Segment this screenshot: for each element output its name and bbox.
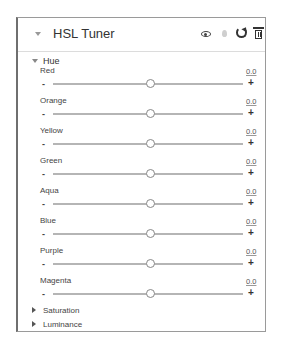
- slider-row-aqua: Aqua 0.0 - +: [18, 186, 268, 216]
- slider-row-magenta: Magenta 0.0 - +: [18, 276, 268, 306]
- slider-value[interactable]: 0.0: [246, 157, 256, 166]
- slider-thumb[interactable]: [146, 289, 155, 298]
- slider-thumb[interactable]: [146, 229, 155, 238]
- panel-header: HSL Tuner: [18, 18, 265, 52]
- slider-label: Blue: [40, 216, 56, 225]
- slider-label: Orange: [40, 96, 67, 105]
- slider-row-blue: Blue 0.0 - +: [18, 216, 268, 246]
- eye-icon[interactable]: [201, 31, 211, 37]
- slider-label: Aqua: [40, 186, 59, 195]
- slider-thumb[interactable]: [146, 169, 155, 178]
- decrement-button[interactable]: -: [42, 289, 45, 299]
- saturation-section-label: Saturation: [43, 306, 79, 315]
- collapse-chevron-icon[interactable]: [35, 32, 41, 36]
- chevron-right-icon: [32, 321, 36, 327]
- slider-value[interactable]: 0.0: [246, 247, 256, 256]
- increment-button[interactable]: +: [248, 77, 254, 88]
- slider-value[interactable]: 0.0: [246, 67, 256, 76]
- slider-value[interactable]: 0.0: [246, 187, 256, 196]
- slider-value[interactable]: 0.0: [246, 97, 256, 106]
- decrement-button[interactable]: -: [42, 109, 45, 119]
- increment-button[interactable]: +: [248, 107, 254, 118]
- slider-thumb[interactable]: [146, 139, 155, 148]
- chevron-right-icon: [32, 307, 36, 313]
- slider-label: Yellow: [40, 126, 63, 135]
- slider-row-red: Red 0.0 - +: [18, 66, 268, 96]
- slider-label: Purple: [40, 246, 63, 255]
- slider-value[interactable]: 0.0: [246, 127, 256, 136]
- slider-label: Magenta: [40, 276, 71, 285]
- luminance-section-toggle[interactable]: Luminance: [32, 320, 82, 329]
- saturation-section-toggle[interactable]: Saturation: [32, 306, 79, 315]
- slider-label: Red: [40, 66, 55, 75]
- chevron-down-icon: [32, 59, 38, 63]
- hue-section-label: Hue: [43, 56, 60, 66]
- panel-title: HSL Tuner: [53, 26, 115, 41]
- decrement-button[interactable]: -: [42, 259, 45, 269]
- increment-button[interactable]: +: [248, 227, 254, 238]
- slider-value[interactable]: 0.0: [246, 277, 256, 286]
- decrement-button[interactable]: -: [42, 79, 45, 89]
- decrement-button[interactable]: -: [42, 199, 45, 209]
- decrement-button[interactable]: -: [42, 229, 45, 239]
- slider-value[interactable]: 0.0: [246, 217, 256, 226]
- slider-thumb[interactable]: [146, 79, 155, 88]
- hue-section-toggle[interactable]: Hue: [32, 56, 60, 66]
- increment-button[interactable]: +: [248, 167, 254, 178]
- slider-row-orange: Orange 0.0 - +: [18, 96, 268, 126]
- drop-icon[interactable]: [222, 30, 227, 37]
- luminance-section-label: Luminance: [43, 320, 82, 329]
- hsl-tuner-panel: HSL Tuner Hue Red 0.0 - + Orange 0.0 - +…: [16, 17, 266, 332]
- decrement-button[interactable]: -: [42, 169, 45, 179]
- decrement-button[interactable]: -: [42, 139, 45, 149]
- increment-button[interactable]: +: [248, 287, 254, 298]
- slider-row-purple: Purple 0.0 - +: [18, 246, 268, 276]
- increment-button[interactable]: +: [248, 197, 254, 208]
- slider-thumb[interactable]: [146, 109, 155, 118]
- increment-button[interactable]: +: [248, 137, 254, 148]
- slider-label: Green: [40, 156, 62, 165]
- slider-thumb[interactable]: [146, 199, 155, 208]
- slider-row-green: Green 0.0 - +: [18, 156, 268, 186]
- reset-icon[interactable]: [236, 27, 247, 38]
- increment-button[interactable]: +: [248, 257, 254, 268]
- trash-icon[interactable]: [254, 27, 263, 39]
- slider-thumb[interactable]: [146, 259, 155, 268]
- slider-row-yellow: Yellow 0.0 - +: [18, 126, 268, 156]
